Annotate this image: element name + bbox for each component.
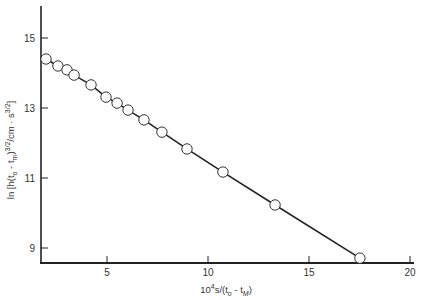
data-point-marker: [218, 167, 228, 177]
data-point-marker: [69, 70, 79, 80]
data-point-marker: [182, 144, 192, 154]
data-point-marker: [157, 127, 167, 137]
y-tick-label: 13: [24, 103, 36, 114]
axes: [40, 6, 414, 264]
data-point-marker: [101, 92, 111, 102]
data-point-marker: [86, 80, 96, 90]
data-point-marker: [123, 105, 133, 115]
y-ticks: 9111315: [24, 33, 48, 254]
x-tick-label: 5: [104, 267, 110, 278]
x-axis-title: 104s/(to - tM): [200, 283, 252, 297]
chart: 5101520 9111315 104s/(to - tM) ln [h(to …: [0, 0, 423, 300]
data-point-marker: [270, 200, 280, 210]
x-tick-label: 15: [303, 267, 315, 278]
y-tick-label: 11: [25, 173, 36, 184]
y-axis-title: ln [h(to - tm)3/2/cm · s3/2]: [4, 101, 18, 199]
x-tick-label: 20: [404, 267, 416, 278]
data-point-marker: [112, 98, 122, 108]
data-point-marker: [355, 253, 365, 263]
x-ticks: 5101520: [104, 256, 416, 278]
x-tick-label: 10: [202, 267, 214, 278]
data-point-marker: [139, 115, 149, 125]
y-tick-label: 9: [29, 243, 35, 254]
data-point-marker: [41, 54, 51, 64]
y-tick-label: 15: [24, 33, 36, 44]
